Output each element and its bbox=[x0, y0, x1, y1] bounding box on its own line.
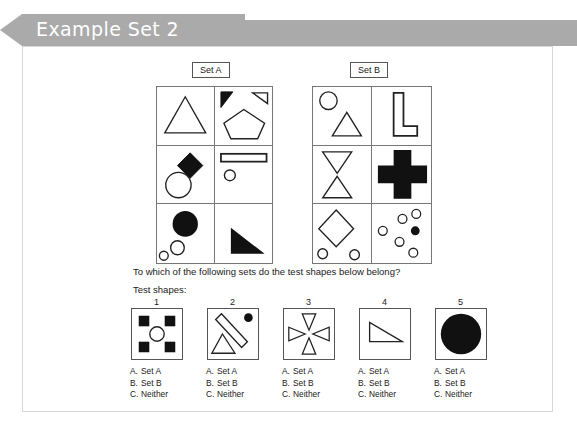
option-b[interactable]: B.Set B bbox=[434, 378, 472, 390]
option-key: A. bbox=[130, 366, 141, 378]
option-label: Set B bbox=[141, 378, 161, 390]
set-a-label: Set A bbox=[192, 62, 230, 78]
options-list-2: A.Set A B.Set B C.Neither bbox=[206, 366, 244, 401]
option-b[interactable]: B.Set B bbox=[206, 378, 244, 390]
set-b-label: Set B bbox=[350, 62, 388, 78]
set-b-cell-6 bbox=[372, 204, 431, 263]
set-a-cell-2 bbox=[215, 87, 273, 146]
option-label: Set A bbox=[445, 366, 465, 378]
option-a[interactable]: A.Set A bbox=[434, 366, 472, 378]
option-label: Neither bbox=[217, 389, 244, 401]
set-b-cell-4 bbox=[372, 146, 431, 205]
option-label: Set A bbox=[369, 366, 389, 378]
page-title: Example Set 2 bbox=[36, 18, 179, 40]
test-figure-2[interactable] bbox=[207, 308, 259, 360]
option-a[interactable]: A.Set A bbox=[282, 366, 320, 378]
option-c[interactable]: C.Neither bbox=[358, 389, 396, 401]
option-label: Neither bbox=[369, 389, 396, 401]
test-number: 3 bbox=[306, 296, 311, 308]
option-a[interactable]: A.Set A bbox=[358, 366, 396, 378]
option-key: B. bbox=[358, 378, 369, 390]
option-label: Set B bbox=[369, 378, 389, 390]
set-a-cell-1 bbox=[157, 87, 215, 146]
option-a[interactable]: A.Set A bbox=[130, 366, 168, 378]
option-label: Set A bbox=[217, 366, 237, 378]
test-item-2: 2 A.Set A B.Set B C.Neither bbox=[206, 296, 259, 401]
test-figure-1[interactable] bbox=[131, 308, 183, 360]
test-number: 1 bbox=[154, 296, 159, 308]
option-a[interactable]: A.Set A bbox=[206, 366, 244, 378]
options-list-4: A.Set A B.Set B C.Neither bbox=[358, 366, 396, 401]
option-label: Set B bbox=[445, 378, 465, 390]
set-a-cell-4 bbox=[215, 146, 273, 205]
set-b-cell-5 bbox=[313, 204, 372, 263]
option-b[interactable]: B.Set B bbox=[358, 378, 396, 390]
option-b[interactable]: B.Set B bbox=[282, 378, 320, 390]
test-item-4: 4 A.Set A B.Set B C.Neither bbox=[358, 296, 411, 401]
option-c[interactable]: C.Neither bbox=[206, 389, 244, 401]
option-key: A. bbox=[434, 366, 445, 378]
option-c[interactable]: C.Neither bbox=[434, 389, 472, 401]
test-item-1: 1 A.Set A B.Set B C.Neither bbox=[130, 296, 183, 401]
test-item-5: 5 A.Set A B.Set B C.Neither bbox=[434, 296, 487, 401]
test-figure-3[interactable] bbox=[283, 308, 335, 360]
option-key: C. bbox=[434, 389, 445, 401]
option-label: Set B bbox=[293, 378, 313, 390]
option-key: C. bbox=[206, 389, 217, 401]
banner-top-step bbox=[245, 14, 577, 20]
option-key: C. bbox=[130, 389, 141, 401]
option-key: A. bbox=[358, 366, 369, 378]
set-a-cell-6 bbox=[215, 204, 273, 263]
set-b-cell-2 bbox=[372, 87, 431, 146]
test-shapes-label: Test shapes: bbox=[133, 284, 186, 295]
option-key: A. bbox=[206, 366, 217, 378]
option-key: B. bbox=[282, 378, 293, 390]
question-text: To which of the following sets do the te… bbox=[133, 266, 400, 277]
option-key: B. bbox=[206, 378, 217, 390]
option-label: Set A bbox=[141, 366, 161, 378]
options-list-1: A.Set A B.Set B C.Neither bbox=[130, 366, 168, 401]
option-b[interactable]: B.Set B bbox=[130, 378, 168, 390]
option-key: C. bbox=[282, 389, 293, 401]
option-label: Set A bbox=[293, 366, 313, 378]
option-label: Neither bbox=[293, 389, 320, 401]
option-c[interactable]: C.Neither bbox=[282, 389, 320, 401]
test-figure-5[interactable] bbox=[435, 308, 487, 360]
option-key: B. bbox=[130, 378, 141, 390]
option-key: B. bbox=[434, 378, 445, 390]
options-list-3: A.Set A B.Set B C.Neither bbox=[282, 366, 320, 401]
set-a-cell-5 bbox=[157, 204, 215, 263]
test-number: 2 bbox=[230, 296, 235, 308]
option-key: A. bbox=[282, 366, 293, 378]
test-figure-4[interactable] bbox=[359, 308, 411, 360]
set-b-cell-1 bbox=[313, 87, 372, 146]
test-number: 5 bbox=[458, 296, 463, 308]
test-item-3: 3 A.Set A B.Set B C.Neither bbox=[282, 296, 335, 401]
set-b-grid bbox=[312, 86, 432, 264]
option-label: Set B bbox=[217, 378, 237, 390]
test-shapes-row: 1 A.Set A B.Set B C.Neither 2 bbox=[130, 296, 487, 401]
set-a-grid bbox=[156, 86, 273, 264]
set-b-cell-3 bbox=[313, 146, 372, 205]
option-label: Neither bbox=[445, 389, 472, 401]
option-c[interactable]: C.Neither bbox=[130, 389, 168, 401]
set-a-cell-3 bbox=[157, 146, 215, 205]
options-list-5: A.Set A B.Set B C.Neither bbox=[434, 366, 472, 401]
option-label: Neither bbox=[141, 389, 168, 401]
test-number: 4 bbox=[382, 296, 387, 308]
option-key: C. bbox=[358, 389, 369, 401]
